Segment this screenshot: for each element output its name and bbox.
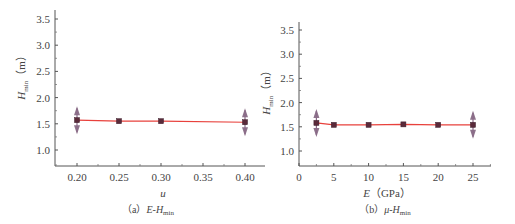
caption-main: μ-H: [383, 204, 400, 215]
x-tick-label: 0.40: [235, 171, 255, 183]
y-tick-label: 2.0: [36, 92, 50, 104]
data-point-marker: [401, 122, 406, 127]
data-point-marker: [314, 120, 319, 125]
chart-panel-a: 1.01.52.02.53.03.50.200.250.300.350.40Hm…: [15, 10, 265, 217]
y-axis-title-unit: （m）: [260, 65, 272, 96]
panel-caption: （a）E-Hmin: [122, 204, 175, 217]
data-point-marker: [117, 119, 122, 124]
y-tick-label: 2.0: [280, 97, 294, 109]
chart-panel-b: 1.01.52.02.53.03.50510152025Hmin（m）E（GPa…: [260, 22, 491, 217]
x-tick-label: 0.35: [193, 171, 213, 183]
y-axis-title-sub: min: [22, 80, 30, 91]
y-tick-label: 1.5: [36, 118, 50, 130]
data-point-marker: [471, 122, 476, 127]
y-tick-label: 2.5: [36, 65, 50, 77]
caption-sub: min: [163, 209, 174, 217]
x-axis-title: E（GPa）: [362, 187, 411, 199]
x-tick-label: 0.30: [151, 171, 171, 183]
data-point-marker: [159, 119, 164, 124]
x-tick-label: 0: [296, 171, 302, 183]
y-tick-label: 3.5: [280, 24, 294, 36]
caption-prefix: （b）: [359, 204, 384, 215]
x-tick-label: 25: [468, 171, 480, 183]
data-point-marker: [75, 118, 80, 123]
data-point-marker: [331, 122, 336, 127]
caption-sub: min: [400, 209, 411, 217]
y-tick-label: 3.5: [36, 13, 50, 25]
y-tick-label: 1.0: [36, 144, 50, 156]
x-axis-title: u: [160, 187, 166, 199]
x-tick-label: 15: [398, 171, 410, 183]
y-tick-label: 2.5: [280, 72, 294, 84]
x-tick-label: 5: [331, 171, 337, 183]
x-axis-title-unit: （GPa）: [370, 187, 411, 199]
y-axis-title-sub: min: [267, 95, 275, 106]
y-tick-label: 3.0: [280, 48, 294, 60]
panel-caption: （b）μ-Hmin: [359, 204, 411, 217]
y-axis-title: Hmin（m）: [15, 50, 30, 100]
y-axis-title: Hmin（m）: [260, 65, 275, 115]
x-axis-title-main: u: [160, 187, 166, 199]
data-line: [316, 123, 473, 125]
y-tick-label: 3.0: [36, 39, 50, 51]
y-axis-title-unit: （m）: [15, 50, 27, 81]
x-tick-label: 10: [363, 171, 375, 183]
x-tick-label: 0.25: [109, 171, 129, 183]
data-point-marker: [366, 122, 371, 127]
caption-prefix: （a）: [122, 204, 146, 215]
y-tick-label: 1.5: [280, 121, 294, 133]
x-tick-label: 0.20: [67, 171, 87, 183]
data-point-marker: [436, 122, 441, 127]
y-tick-label: 1.0: [280, 145, 294, 157]
data-point-marker: [243, 120, 248, 125]
caption-main: E-H: [145, 204, 163, 215]
x-tick-label: 20: [433, 171, 445, 183]
figure: 1.01.52.02.53.03.50.200.250.300.350.40Hm…: [0, 0, 515, 224]
